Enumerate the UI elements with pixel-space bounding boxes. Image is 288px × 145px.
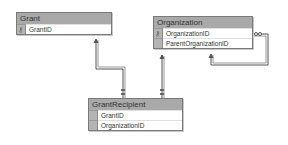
key-icon: ⚷: [18, 25, 23, 34]
table-column-row[interactable]: ⚷ OrganizationID: [154, 28, 252, 38]
column-name: GrantID: [26, 24, 111, 34]
table-column-row[interactable]: GrantID: [89, 110, 182, 120]
row-selector-cell: [154, 38, 163, 48]
table-grantrecipient[interactable]: GrantRecipient GrantID OrganizationID: [88, 98, 183, 131]
key-cell: ⚷: [17, 24, 26, 34]
key-cell: ⚷: [154, 28, 163, 38]
table-organization[interactable]: Organization ⚷ OrganizationID ParentOrga…: [153, 16, 253, 49]
column-name: OrganizationID: [163, 28, 252, 38]
row-selector-cell: [89, 120, 98, 130]
relationship-grant-grantrecipient[interactable]: [94, 39, 125, 98]
table-column-row[interactable]: ParentOrganizationID: [154, 38, 252, 48]
column-name: ParentOrganizationID: [163, 38, 252, 48]
row-selector-cell: [89, 110, 98, 120]
table-column-row[interactable]: ⚷ GrantID: [17, 24, 111, 34]
table-title: Organization: [154, 17, 252, 28]
table-grant[interactable]: Grant ⚷ GrantID: [16, 12, 112, 35]
key-icon: ⚷: [155, 29, 160, 38]
table-title: Grant: [17, 13, 111, 24]
relationship-organization-grantrecipient[interactable]: [160, 55, 164, 98]
column-name: GrantID: [98, 110, 182, 120]
table-column-row[interactable]: OrganizationID: [89, 120, 182, 130]
table-title: GrantRecipient: [89, 99, 182, 110]
column-name: OrganizationID: [98, 120, 182, 130]
